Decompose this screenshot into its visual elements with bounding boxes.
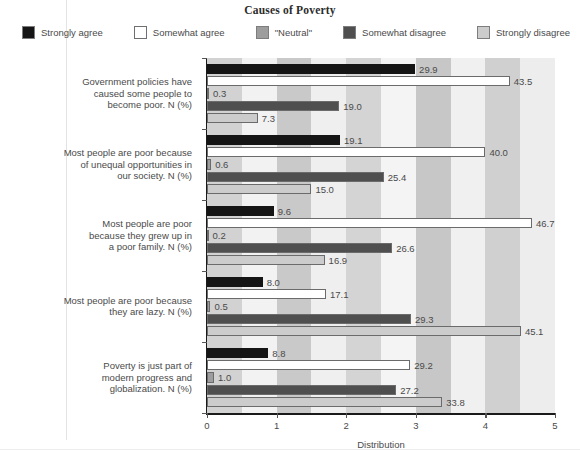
category-label-line: of unequal opportunities in [0, 159, 192, 171]
bar-0 [207, 277, 263, 287]
bar-row: 0.6 [207, 159, 555, 169]
bar-3 [207, 243, 392, 253]
bar-group: 8.829.21.027.233.8 [207, 342, 555, 413]
bar-value-label: 9.6 [274, 205, 291, 216]
bar-row: 26.6 [207, 243, 555, 253]
bar-0 [207, 135, 340, 145]
y-tick-mark [202, 129, 207, 130]
bar-row: 25.4 [207, 172, 555, 182]
legend-swatch-icon [134, 26, 147, 39]
category-label-line: a poor family. N (%) [0, 241, 192, 253]
bar-1 [207, 76, 510, 86]
category-label-2: Most people are poorbecause they grew up… [0, 218, 192, 253]
category-label-line: Most people are poor because [0, 147, 192, 159]
bar-value-label: 25.4 [384, 171, 407, 182]
category-label-line: become poor. N (%) [0, 99, 192, 111]
bar-group: 9.646.70.226.616.9 [207, 200, 555, 271]
y-tick-mark [202, 200, 207, 201]
bar-row: 27.2 [207, 385, 555, 395]
bar-value-label: 0.5 [210, 301, 227, 312]
bar-0 [207, 206, 274, 216]
legend-label: Somewhat disagree [362, 27, 446, 38]
bar-row: 19.0 [207, 101, 555, 111]
bar-row: 9.6 [207, 206, 555, 216]
x-tick-label: 2 [344, 420, 349, 431]
x-tick-label: 5 [552, 420, 557, 431]
bar-value-label: 27.2 [396, 384, 419, 395]
bar-value-label: 7.3 [258, 113, 275, 124]
bar-value-label: 16.9 [325, 255, 348, 266]
bar-row: 8.8 [207, 348, 555, 358]
bar-row: 46.7 [207, 218, 555, 228]
bar-value-label: 15.0 [311, 184, 334, 195]
bar-row: 1.0 [207, 372, 555, 382]
category-label-line: Poverty is just part of [0, 360, 192, 372]
x-tick-mark [485, 413, 486, 418]
bar-1 [207, 289, 326, 299]
bar-4 [207, 397, 442, 407]
bar-3 [207, 385, 396, 395]
bar-0 [207, 348, 268, 358]
bar-value-label: 0.2 [209, 230, 226, 241]
bar-row: 0.5 [207, 301, 555, 311]
x-tick-mark [207, 413, 208, 418]
bar-value-label: 45.1 [521, 326, 544, 337]
bar-group: 29.943.50.319.07.3 [207, 58, 555, 129]
category-label-line: they are lazy. N (%) [0, 306, 192, 318]
x-axis-line [206, 413, 555, 415]
category-label-line: because they grew up in [0, 230, 192, 242]
x-tick-label: 0 [204, 420, 209, 431]
bar-1 [207, 147, 485, 157]
x-axis-caption: Distribution [207, 439, 555, 450]
bar-value-label: 0.6 [211, 159, 228, 170]
bar-1 [207, 218, 532, 228]
x-tick-label: 3 [413, 420, 418, 431]
category-label-line: Most people are poor because [0, 295, 192, 307]
bar-4 [207, 113, 258, 123]
y-tick-mark [202, 58, 207, 59]
bar-row: 7.3 [207, 113, 555, 123]
x-tick-mark [416, 413, 417, 418]
bar-0 [207, 64, 415, 74]
bar-value-label: 8.0 [263, 276, 280, 287]
bar-row: 16.9 [207, 255, 555, 265]
bar-value-label: 29.3 [411, 313, 434, 324]
category-label-line: caused some people to [0, 88, 192, 100]
bar-value-label: 1.0 [214, 372, 231, 383]
bar-value-label: 46.7 [532, 218, 555, 229]
x-tick-mark [346, 413, 347, 418]
bar-value-label: 29.2 [410, 360, 433, 371]
bar-value-label: 19.1 [340, 134, 363, 145]
category-label-1: Most people are poor becauseof unequal o… [0, 147, 192, 182]
x-tick-mark [555, 413, 556, 418]
bar-row: 0.3 [207, 88, 555, 98]
legend-swatch-icon [477, 26, 490, 39]
legend-label: Strongly disagree [496, 27, 570, 38]
bar-row: 45.1 [207, 326, 555, 336]
bar-value-label: 43.5 [510, 76, 533, 87]
legend-swatch-icon [22, 26, 35, 39]
bar-row: 29.9 [207, 64, 555, 74]
category-label-0: Government policies havecaused some peop… [0, 76, 192, 111]
category-label-line: globalization. N (%) [0, 383, 192, 395]
category-label-line: modern progress and [0, 372, 192, 384]
bar-group: 19.140.00.625.415.0 [207, 129, 555, 200]
bar-3 [207, 172, 384, 182]
bar-value-label: 8.8 [268, 347, 285, 358]
bar-row: 29.2 [207, 360, 555, 370]
bar-value-label: 29.9 [415, 63, 438, 74]
x-tick-mark [277, 413, 278, 418]
category-label-line: our society. N (%) [0, 170, 192, 182]
bar-row: 8.0 [207, 277, 555, 287]
bar-group: 8.017.10.529.345.1 [207, 271, 555, 342]
bar-value-label: 26.6 [392, 242, 415, 253]
legend-item-4: Strongly disagree [477, 26, 570, 39]
legend-item-3: Somewhat disagree [343, 26, 446, 39]
chart-title: Causes of Poverty [0, 4, 580, 16]
legend-item-2: "Neutral" [256, 26, 312, 39]
bar-row: 29.3 [207, 314, 555, 324]
x-tick-label: 4 [483, 420, 488, 431]
bar-2 [207, 372, 214, 382]
legend-item-0: Strongly agree [22, 26, 103, 39]
category-label-column: Government policies havecaused some peop… [0, 58, 200, 413]
